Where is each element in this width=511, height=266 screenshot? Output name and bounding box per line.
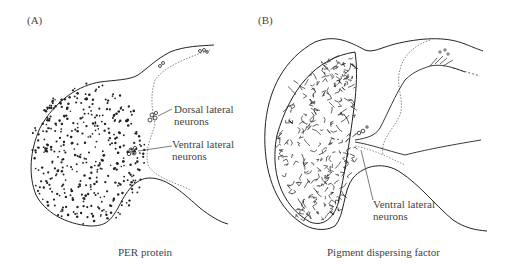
- panel-a: (A) Dorsal lateral neurons Ventral later…: [0, 0, 255, 266]
- label-dorsal-lateral-neurons: Dorsal lateral neurons: [174, 103, 234, 127]
- caption-pigment-dispersing-factor: Pigment dispersing factor: [327, 246, 440, 258]
- panel-b: (B) Ventral lateral neurons Pigment disp…: [255, 0, 511, 266]
- label-ventral-lateral-neurons-a: Ventral lateral neurons: [172, 138, 234, 162]
- label-ventral-lateral-neurons-b: Ventral lateral neurons: [373, 198, 435, 222]
- pdf-brain-illustration: [255, 0, 511, 266]
- per-protein-brain-illustration: [0, 0, 255, 266]
- caption-per-protein: PER protein: [118, 246, 172, 258]
